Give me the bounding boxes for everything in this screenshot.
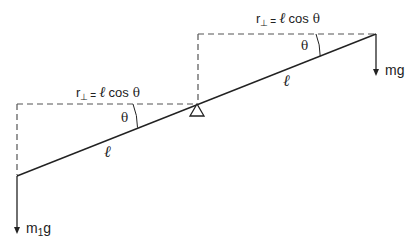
length-ell-left: ℓ [104,142,111,161]
force-arrow-left [14,176,20,234]
force-label-mg: mg [385,62,404,78]
top-r-perp-label: r⊥=ℓcosθ [256,9,320,28]
left-r-perp-label: r⊥=ℓcosθ [76,83,140,102]
force-label-m1g: m1g [26,220,51,238]
arrowhead-down-icon [373,69,379,76]
pivot-fulcrum-icon [190,104,204,116]
force-arrow-right [373,34,379,76]
arrowhead-down-icon [14,227,20,234]
angle-theta-right: θ [301,39,308,53]
angle-theta-left: θ [121,111,128,125]
torque-lever-diagram: r⊥=ℓcosθ r⊥=ℓcosθ θ θ ℓ ℓ mg m1g [0,0,411,243]
angle-arc-left [133,104,138,128]
length-ell-right: ℓ [283,71,290,90]
angle-arc-right [316,34,320,56]
